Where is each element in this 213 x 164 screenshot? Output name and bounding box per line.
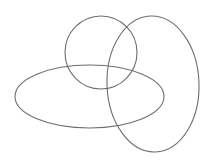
horizontal-ellipse-shape [15, 65, 164, 128]
overlapping-shapes-diagram [0, 0, 213, 164]
diagram-canvas [0, 0, 213, 164]
